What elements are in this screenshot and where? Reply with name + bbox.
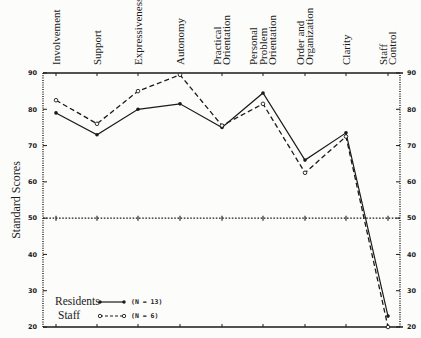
legend-n-label: (N = 13) <box>131 298 162 306</box>
data-point-open <box>178 73 182 77</box>
legend-marker <box>122 314 125 317</box>
data-point-filled <box>261 91 265 95</box>
y-tick-label-left: 30 <box>28 287 38 295</box>
legend-n-label: (N = 6) <box>131 312 158 320</box>
y-tick-label-right: 90 <box>407 69 417 77</box>
series-line-staff <box>56 75 388 327</box>
y-tick-label-left: 70 <box>28 142 38 150</box>
data-point-open <box>386 325 390 329</box>
data-series <box>54 73 390 329</box>
y-tick-label-left: 20 <box>28 323 38 331</box>
category-label: Involvement <box>50 9 62 65</box>
category-label: Orientation <box>266 14 278 65</box>
chart-canvas: 20203030404050506060707080809090 Involve… <box>0 0 421 338</box>
data-point-open <box>220 124 224 128</box>
y-tick-label-right: 60 <box>407 178 417 186</box>
y-tick-label-right: 50 <box>407 214 417 222</box>
legend: Residents(N = 13)Staff(N = 6) <box>55 295 162 321</box>
legend-label-staff: Staff <box>58 309 80 321</box>
data-point-filled <box>178 102 182 106</box>
data-point-filled <box>386 314 390 318</box>
data-point-open <box>303 171 307 175</box>
data-point-open <box>344 135 348 139</box>
legend-marker <box>98 314 101 317</box>
data-point-filled <box>303 158 307 162</box>
category-label: Autonomy <box>174 17 186 65</box>
data-point-open <box>95 122 99 126</box>
y-axis-label: Standard Scores <box>9 161 23 239</box>
y-tick-label-right: 80 <box>407 106 417 114</box>
category-labels: InvolvementSupportExpressivenessAutonomy… <box>50 0 399 65</box>
y-tick-label-left: 80 <box>28 106 38 114</box>
data-point-filled <box>136 107 140 111</box>
category-label: Orientation <box>220 14 232 65</box>
legend-marker <box>122 300 125 303</box>
data-point-filled <box>54 111 58 115</box>
reference-line-50 <box>43 216 400 221</box>
category-label: Support <box>91 30 103 65</box>
category-label: Clarity <box>340 34 352 65</box>
y-tick-label-right: 40 <box>407 251 417 259</box>
y-tick-label-left: 40 <box>28 251 38 259</box>
y-tick-label-right: 70 <box>407 142 417 150</box>
category-label: Control <box>386 31 398 65</box>
y-tick-label-right: 20 <box>407 323 417 331</box>
data-point-filled <box>95 133 99 137</box>
legend-marker <box>98 300 101 303</box>
data-point-open <box>54 98 58 102</box>
y-tick-label-left: 60 <box>28 178 38 186</box>
y-tick-label-left: 50 <box>28 214 38 222</box>
y-tick-label-right: 30 <box>407 287 417 295</box>
data-point-open <box>136 89 140 93</box>
axes: 20203030404050506060707080809090 <box>28 69 417 331</box>
category-label: Expressiveness <box>132 0 144 65</box>
category-label: Organization <box>303 7 315 65</box>
y-tick-label-left: 90 <box>28 69 38 77</box>
data-point-open <box>261 102 265 106</box>
legend-label-residents: Residents <box>55 295 100 307</box>
data-point-filled <box>344 131 348 135</box>
